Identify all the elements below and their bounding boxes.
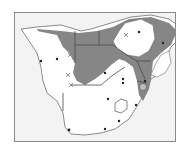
map-svg bbox=[15, 13, 176, 142]
distribution-map bbox=[14, 12, 176, 142]
swaziland-outline bbox=[140, 84, 147, 91]
